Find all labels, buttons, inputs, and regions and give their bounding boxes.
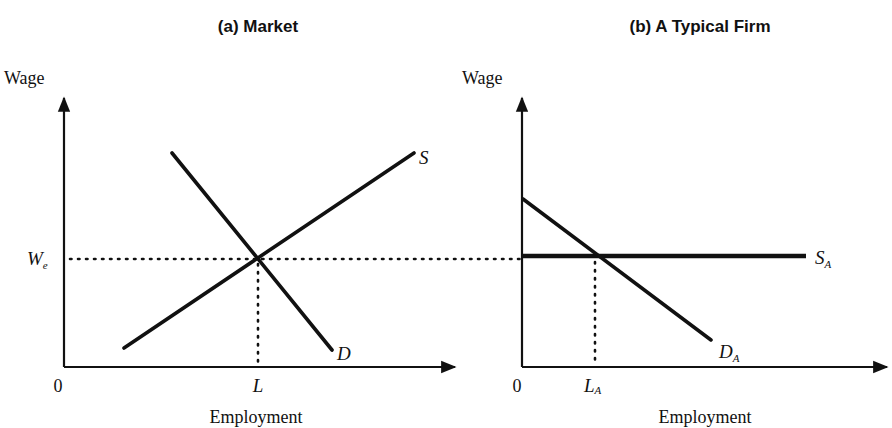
- labor-market-diagram: (a) Market Wage S D We 0 L Employment (b…: [0, 0, 892, 428]
- panel-market: (a) Market Wage S D We 0 L Employment: [4, 17, 520, 427]
- demand-label: D: [336, 343, 351, 364]
- panel-b-y-axis-label: Wage: [462, 68, 503, 88]
- panel-typical-firm: (b) A Typical Firm Wage SA DA 0 LA Emplo…: [462, 17, 887, 427]
- panel-a-title: (a) Market: [218, 17, 299, 36]
- panel-b-title: (b) A Typical Firm: [629, 17, 770, 36]
- panel-b-employment-label: LA: [583, 375, 602, 396]
- firm-supply-label: SA: [815, 247, 832, 270]
- supply-label: S: [419, 147, 429, 168]
- panel-a-y-axis-label: Wage: [4, 68, 45, 88]
- firm-demand-curve: [523, 199, 711, 340]
- panel-a-employment-label: L: [252, 375, 264, 396]
- market-supply-curve: [124, 153, 414, 348]
- market-demand-curve: [172, 153, 332, 350]
- firm-demand-label: DA: [718, 341, 740, 364]
- panel-b-x-axis-label: Employment: [659, 407, 752, 427]
- panel-a-x-axis-label: Employment: [210, 407, 303, 427]
- panel-a-origin-label: 0: [54, 376, 63, 396]
- panel-b-origin-label: 0: [513, 376, 522, 396]
- equilibrium-wage-label: We: [27, 248, 48, 271]
